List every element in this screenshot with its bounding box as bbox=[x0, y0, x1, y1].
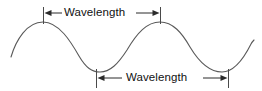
arrow-right-icon bbox=[153, 10, 160, 16]
wave-curve bbox=[11, 22, 254, 72]
wavelength-diagram: Wavelength Wavelength bbox=[0, 0, 262, 91]
arrow-left-icon bbox=[45, 10, 52, 16]
arrow-right-icon bbox=[221, 75, 228, 81]
arrow-left-icon bbox=[98, 75, 105, 81]
bottom-wavelength-label: Wavelength bbox=[126, 72, 187, 84]
top-wavelength-label: Wavelength bbox=[64, 7, 125, 19]
